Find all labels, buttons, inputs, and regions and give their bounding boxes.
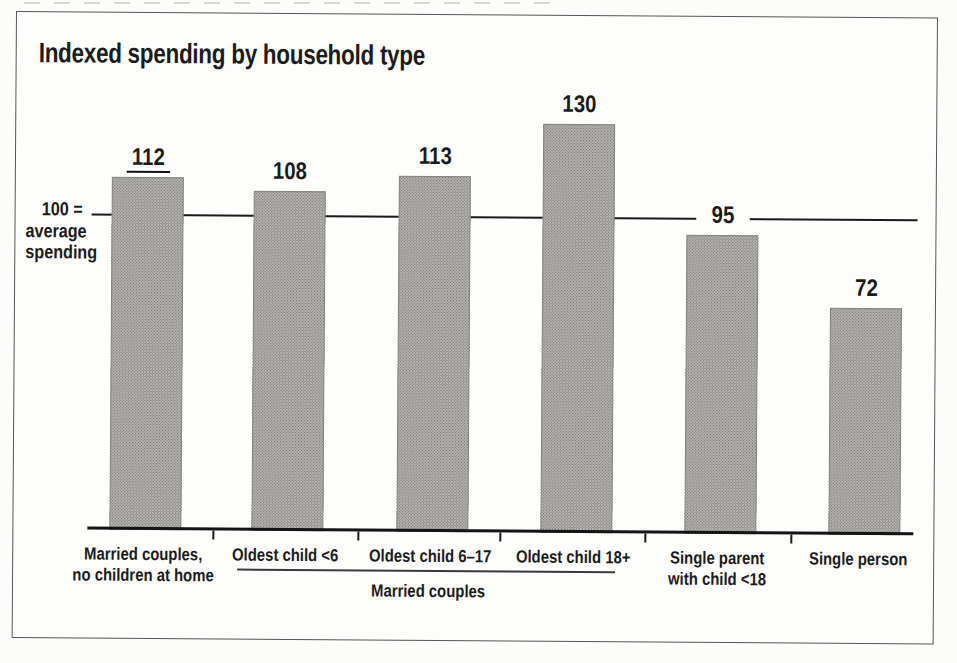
bar-oldest-child-18plus: [540, 123, 615, 533]
reference-label-line: spending: [25, 241, 82, 263]
bar-married-no-children: [109, 177, 183, 530]
axis-tick: [212, 530, 214, 539]
axis-tick: [357, 531, 359, 540]
bar-value-text: 72: [850, 275, 883, 301]
chart-title-text: Indexed spending by household type: [39, 37, 426, 72]
axis-tick: [644, 533, 646, 542]
bar-value-text: 108: [268, 158, 312, 184]
reference-line-label: 100 = average spending: [15, 198, 82, 263]
bar-value-oldest-child-6-17: 113: [390, 143, 480, 170]
reference-label-line: average: [25, 220, 82, 242]
bar-value-married-no-children: 112: [103, 144, 193, 174]
category-label-line: Oldest child <6: [209, 544, 362, 566]
category-label-line: Single person: [782, 548, 935, 570]
scanned-page: Indexed spending by household type 100 =…: [0, 0, 957, 663]
bar-oldest-child-under-6: [251, 190, 325, 531]
axis-tick: [499, 532, 501, 541]
axis-tick: [790, 534, 792, 543]
bar-value-text: 112: [126, 144, 169, 173]
bar-single-parent: [684, 234, 758, 534]
bar-value-text: 95: [696, 202, 749, 228]
bar-value-oldest-child-under-6: 108: [245, 157, 335, 184]
group-label-text: Married couples: [371, 580, 485, 602]
category-label-single-person: Single person: [768, 548, 948, 570]
bar-value-single-parent: 95: [678, 201, 768, 228]
bar-oldest-child-6-17: [396, 176, 470, 532]
bar-value-text: 130: [557, 90, 601, 116]
bar-value-text: 113: [413, 143, 456, 169]
bar-value-single-person: 72: [821, 275, 911, 302]
category-label-line: with child <18: [640, 568, 793, 590]
group-bracket-line: [237, 569, 615, 573]
bar-value-oldest-child-18plus: 130: [534, 90, 624, 117]
bar-single-person: [828, 308, 902, 535]
reference-line-100: [92, 214, 918, 222]
scan-artifact-streak: [24, 2, 564, 4]
chart-frame: Indexed spending by household type 100 =…: [12, 11, 938, 644]
reference-label-line: 100 =: [26, 198, 83, 220]
group-label-married-couples: Married couples: [328, 580, 528, 602]
chart-title: Indexed spending by household type: [39, 37, 522, 72]
category-label-line: no children at home: [66, 564, 219, 586]
